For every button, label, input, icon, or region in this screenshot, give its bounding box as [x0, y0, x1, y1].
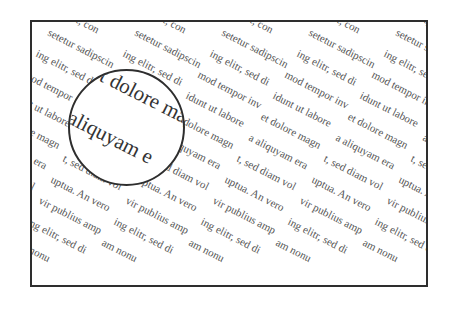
- pattern-text: am nonu: [274, 237, 313, 264]
- magnifier-lens: t dolore mag aliquyam e: [68, 69, 185, 186]
- magnified-line-2: aliquyam e: [68, 107, 157, 168]
- pattern-text: am nonu: [30, 237, 52, 264]
- pattern-text: am nonu: [187, 237, 226, 264]
- pattern-text: am nonu: [100, 237, 139, 264]
- pattern-text: am nonu: [361, 237, 400, 264]
- pattern-frame: amet, consetetur sadipscining elitr, sed…: [30, 20, 428, 287]
